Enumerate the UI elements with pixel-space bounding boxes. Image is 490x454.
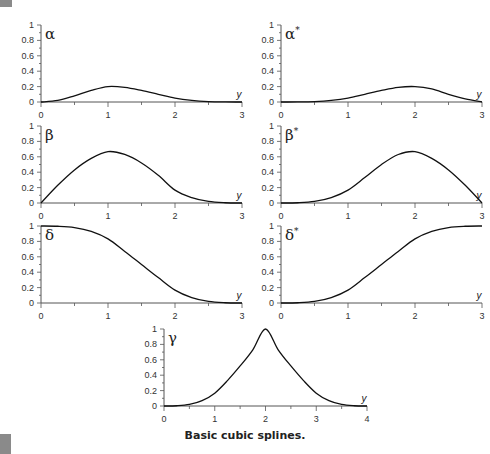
y-tick-label: 0.6 [144, 355, 157, 365]
panel-title: α [45, 25, 55, 43]
y-tick-label: 0 [269, 97, 274, 107]
x-axis-label: y [476, 89, 483, 100]
y-tick-label: 0.8 [21, 35, 34, 45]
spline-curve [281, 87, 482, 102]
y-tick-label: 0.6 [261, 252, 274, 262]
y-tick-label: 0.8 [261, 35, 274, 45]
spline-curve [164, 329, 367, 406]
x-tick-label: 0 [38, 110, 43, 120]
x-tick-label: 1 [345, 110, 350, 120]
panel-beta: 00.20.40.60.810123yβ [21, 121, 244, 221]
y-tick-label: 0 [29, 97, 34, 107]
x-tick-label: 0 [38, 311, 43, 321]
x-tick-label: 1 [345, 211, 350, 221]
panel-alpha-star: 00.20.40.60.810123yα* [261, 20, 484, 120]
x-tick-label: 3 [239, 311, 244, 321]
y-tick-label: 0 [29, 198, 34, 208]
panel-title: β* [285, 126, 299, 144]
y-tick-label: 0.6 [21, 51, 34, 61]
x-tick-label: 2 [172, 110, 177, 120]
y-tick-label: 0 [269, 198, 274, 208]
x-tick-label: 0 [278, 311, 283, 321]
x-tick-label: 3 [479, 211, 484, 221]
y-tick-label: 1 [269, 121, 274, 131]
panel-beta-star: 00.20.40.60.810123yβ* [261, 121, 484, 221]
y-tick-label: 0.4 [144, 370, 157, 380]
y-tick-label: 1 [29, 221, 34, 231]
x-tick-label: 2 [172, 211, 177, 221]
x-axis-label: y [236, 290, 243, 301]
y-tick-label: 1 [269, 221, 274, 231]
panel-title: δ* [285, 226, 299, 244]
panel-title: β [45, 126, 54, 144]
x-axis-label: y [236, 190, 243, 201]
x-tick-label: 2 [172, 311, 177, 321]
y-tick-label: 0.4 [21, 167, 34, 177]
y-tick-label: 1 [269, 20, 274, 30]
x-tick-label: 3 [314, 414, 319, 424]
x-tick-label: 0 [278, 211, 283, 221]
x-tick-label: 0 [278, 110, 283, 120]
x-tick-label: 0 [161, 414, 166, 424]
x-tick-label: 1 [105, 211, 110, 221]
y-tick-label: 0.2 [21, 283, 34, 293]
figure-caption: Basic cubic splines. [0, 429, 490, 442]
panel-title: α* [285, 25, 300, 43]
y-tick-label: 0 [29, 298, 34, 308]
y-tick-label: 0.8 [261, 236, 274, 246]
y-tick-label: 0.6 [21, 152, 34, 162]
y-tick-label: 0.4 [21, 267, 34, 277]
panel-delta: 00.20.40.60.810123yδ [21, 221, 244, 321]
y-tick-label: 0.2 [261, 82, 274, 92]
y-tick-label: 1 [29, 121, 34, 131]
y-tick-label: 0.6 [21, 252, 34, 262]
x-tick-label: 3 [479, 311, 484, 321]
spline-figure: 00.20.40.60.810123yα00.20.40.60.810123yα… [0, 0, 490, 454]
panel-alpha: 00.20.40.60.810123yα [21, 20, 244, 120]
y-tick-label: 0.8 [261, 136, 274, 146]
y-tick-label: 0.2 [21, 82, 34, 92]
y-tick-label: 0.4 [261, 167, 274, 177]
y-tick-label: 0.6 [261, 152, 274, 162]
spline-curve [41, 86, 242, 102]
y-tick-label: 0.4 [261, 267, 274, 277]
panel-gamma: 00.20.40.60.8101234yγ [144, 324, 369, 424]
x-tick-label: 0 [38, 211, 43, 221]
y-tick-label: 0.4 [261, 66, 274, 76]
y-tick-label: 0.8 [21, 236, 34, 246]
y-tick-label: 0.4 [21, 66, 34, 76]
x-tick-label: 2 [263, 414, 268, 424]
y-tick-label: 0 [269, 298, 274, 308]
x-axis-label: y [236, 89, 243, 100]
x-tick-label: 1 [345, 311, 350, 321]
x-tick-label: 1 [105, 110, 110, 120]
spline-curve [281, 151, 482, 203]
panel-title: δ [45, 226, 54, 244]
y-tick-label: 0.2 [261, 183, 274, 193]
x-tick-label: 2 [412, 311, 417, 321]
x-tick-label: 1 [105, 311, 110, 321]
panel-title: γ [168, 329, 177, 347]
spline-curve [281, 226, 482, 303]
x-tick-label: 3 [479, 110, 484, 120]
x-axis-label: y [476, 290, 483, 301]
x-tick-label: 1 [212, 414, 217, 424]
y-tick-label: 1 [152, 324, 157, 334]
x-tick-label: 3 [239, 110, 244, 120]
spline-curve [41, 151, 242, 203]
x-tick-label: 2 [412, 211, 417, 221]
x-tick-label: 2 [412, 110, 417, 120]
spline-curve [41, 226, 242, 303]
x-tick-label: 3 [239, 211, 244, 221]
y-tick-label: 0.8 [21, 136, 34, 146]
y-tick-label: 0.2 [21, 183, 34, 193]
x-axis-label: y [361, 393, 368, 404]
y-tick-label: 0.6 [261, 51, 274, 61]
x-tick-label: 4 [364, 414, 369, 424]
y-tick-label: 0.2 [261, 283, 274, 293]
panel-delta-star: 00.20.40.60.810123yδ* [261, 221, 484, 321]
y-tick-label: 1 [29, 20, 34, 30]
y-tick-label: 0 [152, 401, 157, 411]
y-tick-label: 0.8 [144, 339, 157, 349]
y-tick-label: 0.2 [144, 386, 157, 396]
